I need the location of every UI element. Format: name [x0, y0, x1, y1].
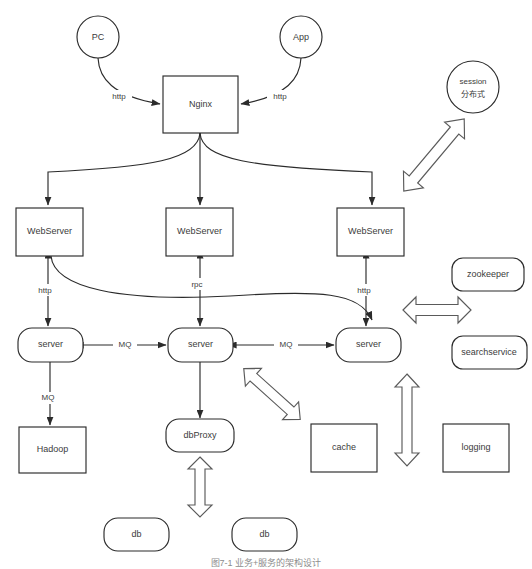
- node-logging-label: logging: [461, 442, 490, 452]
- node-cache: cache: [311, 424, 377, 472]
- node-server-mid-label: server: [188, 339, 213, 349]
- node-session-label-line1: session: [459, 77, 486, 86]
- node-server-right: server: [336, 328, 401, 362]
- node-searchservice: searchservice: [452, 336, 527, 369]
- node-dbproxy-label: dbProxy: [183, 430, 217, 440]
- node-cache-label: cache: [332, 442, 356, 452]
- node-hadoop: Hadoop: [19, 427, 86, 473]
- node-server-left: server: [18, 328, 83, 362]
- node-db-left: db: [104, 518, 169, 551]
- node-pc: PC: [77, 16, 119, 58]
- node-webserver-mid-label: WebServer: [177, 226, 222, 236]
- node-dbproxy: dbProxy: [166, 419, 234, 452]
- node-webserver-right: WebServer: [337, 208, 404, 256]
- edge-label-webserver-right-server-right: http: [357, 286, 371, 295]
- edge-webserver-left-to-server-right: [51, 256, 372, 320]
- edge-label-server-mid-server-right: MQ: [280, 340, 293, 349]
- architecture-diagram-canvas: PC App session 分布式 Nginx WebServer WebSe…: [0, 0, 532, 569]
- node-webserver-left-label: WebServer: [27, 226, 72, 236]
- node-zookeeper: zookeeper: [452, 258, 524, 291]
- node-db-right: db: [232, 518, 297, 551]
- node-webserver-mid: WebServer: [166, 208, 233, 256]
- node-hadoop-label: Hadoop: [37, 444, 69, 454]
- edge-label-webserver-mid-server-mid: rpc: [191, 280, 202, 289]
- block-arrow-cache: [236, 360, 309, 429]
- block-arrow-cache-shape: [236, 360, 309, 429]
- node-logging: logging: [443, 424, 509, 472]
- node-nginx-label: Nginx: [189, 99, 213, 109]
- edge-nginx-to-webserver-left: [48, 133, 200, 205]
- edge-label-webserver-left-server-left: http: [38, 286, 52, 295]
- diagram-caption: 图7-1 业务+服务的架构设计: [211, 557, 322, 568]
- block-arrow-session: [394, 111, 474, 200]
- node-pc-label: PC: [92, 32, 105, 42]
- edge-label-server-left-server-mid: MQ: [119, 340, 132, 349]
- node-zookeeper-label: zookeeper: [467, 269, 509, 279]
- node-session-shape: [447, 61, 499, 113]
- node-session: session 分布式: [447, 61, 499, 113]
- node-webserver-right-label: WebServer: [348, 226, 393, 236]
- node-session-label-line2: 分布式: [461, 89, 485, 99]
- block-arrow-db: [188, 457, 212, 517]
- block-arrow-session-shape: [394, 111, 474, 200]
- edge-label-app-nginx: http: [273, 92, 287, 101]
- architecture-diagram: PC App session 分布式 Nginx WebServer WebSe…: [0, 0, 532, 569]
- block-arrow-logging: [395, 374, 419, 466]
- node-server-mid: server: [168, 328, 233, 362]
- node-app: App: [280, 16, 322, 58]
- node-webserver-left: WebServer: [16, 208, 83, 256]
- node-searchservice-label: searchservice: [461, 347, 517, 357]
- block-arrow-db-shape: [188, 457, 212, 517]
- block-arrow-zookeeper-shape: [403, 297, 471, 323]
- edge-label-server-left-hadoop: MQ: [42, 393, 55, 402]
- node-app-label: App: [293, 32, 309, 42]
- node-db-left-label: db: [131, 529, 141, 539]
- node-server-left-label: server: [38, 339, 63, 349]
- block-arrow-logging-shape: [395, 374, 419, 466]
- node-server-right-label: server: [356, 339, 381, 349]
- edge-nginx-to-webserver-right: [200, 133, 372, 205]
- node-db-right-label: db: [259, 529, 269, 539]
- node-nginx: Nginx: [163, 76, 238, 133]
- edge-label-pc-nginx: http: [112, 92, 126, 101]
- block-arrow-zookeeper: [403, 297, 471, 323]
